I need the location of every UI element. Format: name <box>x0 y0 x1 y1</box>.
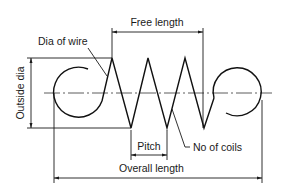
spring-coil <box>54 58 262 128</box>
no-of-coils-label: No of coils <box>193 141 242 153</box>
overall-length-dimension: Overall length <box>54 93 262 183</box>
dia-of-wire-annotation: Dia of wire <box>38 35 107 76</box>
pitch-label: Pitch <box>137 140 161 152</box>
dia-of-wire-label: Dia of wire <box>38 35 88 47</box>
spring-diagram: Free length Dia of wire Outside dia Pitc… <box>0 0 286 191</box>
pitch-dimension: Pitch <box>131 130 167 160</box>
overall-length-label: Overall length <box>119 162 184 174</box>
free-length-label: Free length <box>130 16 183 28</box>
outside-dia-label: Outside dia <box>14 66 26 119</box>
